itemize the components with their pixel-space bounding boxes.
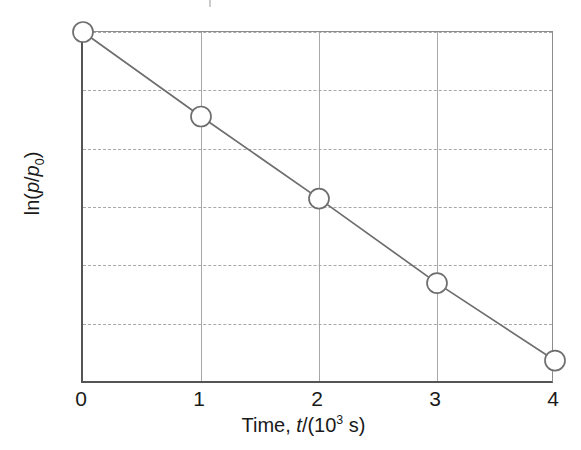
- plot-area: [81, 31, 553, 383]
- data-point-marker: [427, 273, 447, 293]
- data-point-marker: [73, 22, 93, 42]
- x-axis-title-units-open: /(10: [302, 414, 336, 436]
- y-axis-title-variable-p: p: [21, 182, 43, 193]
- scan-artifact: [209, 0, 211, 7]
- xtick-label-1: 1: [179, 388, 219, 409]
- data-point-marker: [545, 351, 565, 371]
- xtick-label-4: 4: [533, 388, 573, 409]
- y-axis-title-subscript: 0: [33, 158, 47, 165]
- data-point-marker: [309, 189, 329, 209]
- data-point-marker: [191, 106, 211, 126]
- x-axis-title-text: Time,: [242, 414, 297, 436]
- y-axis-title-close-paren: ): [21, 152, 43, 159]
- xtick-label-0: 0: [61, 388, 101, 409]
- x-axis-title: Time, t/(103 s): [0, 414, 581, 437]
- x-axis-title-units-close: s): [343, 414, 365, 436]
- y-axis-title: ln(p/p0): [21, 4, 44, 364]
- xtick-label-3: 3: [415, 388, 455, 409]
- y-axis-title-variable-p0: p: [21, 165, 43, 176]
- y-axis-title-slash: /: [21, 176, 43, 182]
- xtick-label-2: 2: [297, 388, 337, 409]
- figure-canvas: 0 −0.5 −1 −1.5 0 1 2 3 4 Time, t/(103 s)…: [0, 0, 581, 450]
- data-layer: [83, 32, 555, 384]
- y-axis-title-ln: ln(: [21, 193, 43, 215]
